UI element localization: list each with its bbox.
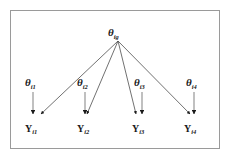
specific-factor-label-3: θi3 [134, 77, 145, 88]
path-general-to-y2 [87, 41, 118, 114]
figure-root: θig θi1 θi2 θi3 θi4 Yi1 Yi2 Yi3 Yi4 [0, 0, 231, 160]
path-general-to-y4 [118, 41, 190, 114]
general-factor-paths [41, 41, 190, 114]
indicator-subscript-1: i1 [32, 128, 37, 135]
general-factor-symbol: θ [108, 26, 114, 38]
indicator-label-4: Yi4 [184, 124, 196, 134]
indicator-subscript-3: i3 [139, 128, 144, 135]
indicator-label-3: Yi3 [132, 124, 144, 134]
specific-factor-paths [33, 92, 194, 114]
specific-factor-label-1: θi1 [25, 77, 36, 88]
specific-factor-symbol-3: θ [134, 76, 140, 88]
general-factor-subscript: ig [114, 33, 119, 40]
specific-factor-subscript-4: i4 [192, 83, 197, 90]
specific-factor-symbol-4: θ [186, 76, 192, 88]
general-factor-label: θig [108, 27, 119, 38]
specific-factor-label-4: θi4 [186, 77, 197, 88]
specific-factor-symbol-2: θ [77, 76, 83, 88]
specific-factor-subscript-2: i2 [83, 83, 88, 90]
indicator-label-2: Yi2 [77, 124, 89, 134]
specific-factor-subscript-3: i3 [140, 83, 145, 90]
indicator-subscript-4: i4 [191, 128, 196, 135]
specific-factor-label-2: θi2 [77, 77, 88, 88]
indicator-subscript-2: i2 [84, 128, 89, 135]
specific-factor-subscript-1: i1 [31, 83, 36, 90]
indicator-label-1: Yi1 [25, 124, 37, 134]
specific-factor-symbol-1: θ [25, 76, 31, 88]
